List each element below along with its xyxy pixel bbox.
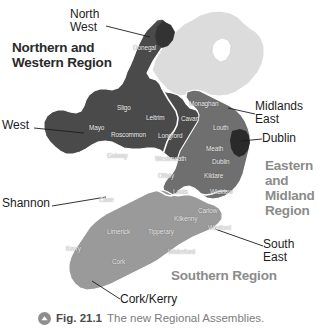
- figure-number: Fig. 21.1: [56, 312, 102, 324]
- county-label-leitrim: Leitrim: [146, 114, 164, 121]
- callout-label-west: West: [2, 119, 29, 132]
- county-label-kildare: Kildare: [204, 172, 223, 179]
- region-label-southern: Southern Region: [171, 268, 277, 283]
- leader-south-east: [215, 229, 263, 246]
- leader-north-west: [106, 26, 150, 37]
- county-label-dublin: Dublin: [212, 158, 230, 165]
- county-label-tipperary: Tipperary: [148, 228, 174, 235]
- county-label-donegal: Donegal: [133, 44, 156, 51]
- county-label-sligo: Sligo: [117, 104, 131, 111]
- region-label-northern-and-western: Northern and Western Region: [12, 40, 112, 70]
- county-label-cavan: Cavan: [181, 115, 199, 122]
- figure-caption-text: The new Regional Assemblies.: [107, 312, 264, 324]
- county-label-offaly: Offaly: [158, 172, 174, 179]
- figure-caption: Fig. 21.1 The new Regional Assemblies.: [0, 305, 324, 331]
- county-label-kilkenny: Kilkenny: [174, 215, 197, 222]
- county-label-louth: Louth: [213, 124, 229, 131]
- region-label-eastern-and-midland: Eastern and Midland Region: [265, 158, 315, 218]
- callout-label-dublin: Dublin: [262, 132, 296, 145]
- callout-label-midlands-east: Midlands East: [255, 100, 303, 126]
- callout-label-north-west: North West: [70, 8, 99, 34]
- county-label-cork: Cork: [112, 258, 125, 265]
- region-northern-ireland: [152, 11, 264, 96]
- callout-label-south-east: South East: [263, 238, 294, 264]
- county-label-roscommon: Roscommon: [111, 131, 146, 138]
- chevron-up-circle-icon: [38, 312, 51, 325]
- county-label-longford: Longford: [158, 132, 182, 139]
- county-label-kerry: Kerry: [66, 245, 81, 252]
- county-label-limerick: Limerick: [107, 228, 130, 235]
- map-of-ireland-regional-assemblies: Northern and Western Region Eastern and …: [0, 0, 324, 305]
- leader-shannon: [52, 197, 106, 206]
- county-label-carlow: Carlow: [198, 207, 217, 214]
- county-label-monaghan: Monaghan: [189, 100, 218, 107]
- county-label-laois: Laois: [173, 188, 188, 195]
- county-label-waterford: Waterford: [168, 248, 195, 255]
- county-label-meath: Meath: [206, 145, 223, 152]
- county-label-mayo: Mayo: [89, 124, 104, 131]
- county-label-wexford: Wexford: [208, 224, 231, 231]
- county-label-clare: Clare: [99, 196, 114, 203]
- figure-page: Northern and Western Region Eastern and …: [0, 0, 324, 331]
- county-label-wicklow: Wicklow: [210, 188, 233, 195]
- county-label-galway: Galway: [107, 152, 128, 159]
- county-label-westmeath: Westmeath: [155, 155, 186, 162]
- callout-label-shannon: Shannon: [2, 197, 50, 210]
